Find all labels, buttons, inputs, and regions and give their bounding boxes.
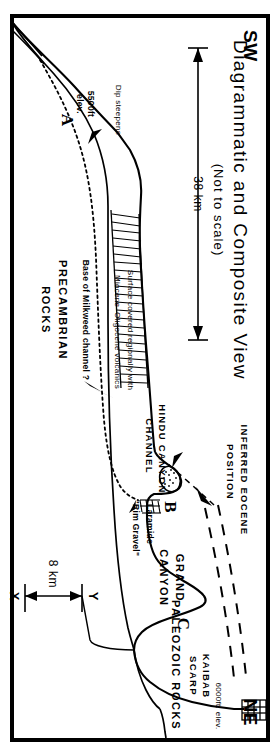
point-label-a: A [58, 114, 76, 126]
sw-toe-wedge-2 [12, 30, 44, 64]
annotation-surface-cover-line2: Miocene–Oligocene volcanics [113, 275, 121, 389]
annotation-kaibab-elevation: 6000ft. elev. [214, 683, 222, 730]
annotation-inferred-eocene-line1: INFERRED EOCENE [239, 425, 249, 536]
annotation-dip-steepens: Dip steepens [114, 85, 122, 135]
arrow-milkweed [84, 381, 102, 392]
unit-label-precambrian-2: ROCKS [39, 286, 51, 334]
unit-label-paleozoic: PALEOZOIC ROCKS [169, 600, 181, 730]
point-label-b: B [161, 501, 179, 512]
annotation-inferred-eocene-line2: POSITION [225, 444, 235, 500]
figure-title: Diagrammatic and Composite View [230, 40, 250, 380]
orientation-label-ne: NE [240, 699, 260, 726]
sw-toe-wedge [12, 22, 42, 56]
figure-subtitle: (Not to scale) [211, 164, 225, 257]
annotation-hindu-canyon-line2: CHANNEL [144, 418, 154, 474]
unit-label-precambrian: PRECAMBRIAN [56, 260, 68, 360]
figure-rotator: SW NE Diagrammatic and Composite View (N… [0, 0, 280, 756]
inferred-eocene-dashed-lower [205, 508, 234, 678]
annotation-kaibab-scarp-line2: SCARP [188, 656, 198, 696]
paleozoic-base-line [160, 709, 166, 738]
scale-tick-label-x: X [7, 592, 21, 601]
annotation-milkweed-channel: Base of Milkweed channel ? [82, 260, 91, 381]
annotation-laramide-line2: "Rim Gravel" [132, 500, 141, 557]
annotation-grand-canyon-line2: CANYON [157, 549, 169, 606]
geologic-cross-section-figure: SW NE Diagrammatic and Composite View (N… [0, 0, 280, 756]
annotation-elevation-a-line1: 5500ft [87, 91, 96, 117]
annotation-surface-cover-line1: Surface covered regionally with [126, 270, 134, 390]
annotation-laramide-line1: Laramide [146, 504, 155, 544]
arrow-inferred-eocene [196, 487, 212, 506]
annotation-elevation-a-line2: elev. [76, 94, 85, 114]
horizontal-scale-label: 38 km [192, 176, 205, 212]
annotation-kaibab-scarp-line1: KAIBAB [201, 654, 211, 699]
annotation-grand-canyon-line1: GRAND [173, 554, 185, 602]
annotation-hindu-canyon-line1: HINDU CANYON [157, 404, 167, 494]
vertical-scale-label: 8 km [47, 560, 60, 588]
scale-tick-label-y: Y [86, 592, 100, 601]
arrow-hindu-canyon [172, 452, 183, 468]
arrow-volcanic-cover [94, 389, 116, 399]
arrow-dip-steepens [88, 129, 102, 144]
